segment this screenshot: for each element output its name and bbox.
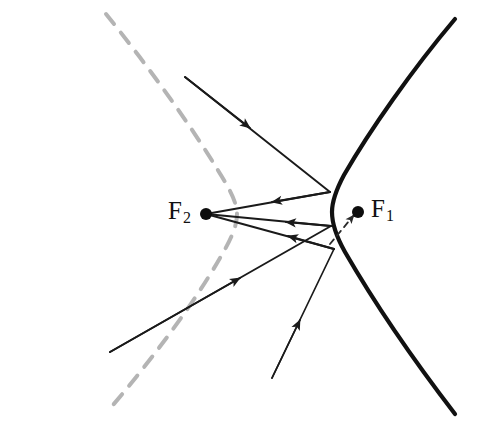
focus-1-label: F1 — [371, 196, 394, 224]
reflected-ray-lower-arrow — [286, 222, 331, 226]
focus-2-dot — [200, 208, 212, 220]
focus-1-dot — [352, 206, 364, 218]
focus-2-label: F2 — [168, 198, 191, 226]
reflected-ray-upper-arrow — [272, 192, 330, 202]
incoming-ray-lower-left-arrow — [110, 278, 240, 352]
hyperbola-reflection-figure: F2 F1 — [0, 0, 477, 428]
incoming-rays-group — [110, 77, 334, 378]
focus-1-label-base: F — [371, 195, 385, 222]
incoming-ray-bottom-arrow — [272, 320, 300, 378]
focus-2-label-subscript: 2 — [182, 209, 191, 226]
reflected-rays-group — [206, 192, 334, 249]
incoming-ray-upper-arrow — [185, 77, 250, 128]
diagram-canvas — [0, 0, 477, 428]
focus-1-label-subscript: 1 — [385, 207, 394, 224]
focus-2-label-base: F — [168, 197, 182, 224]
